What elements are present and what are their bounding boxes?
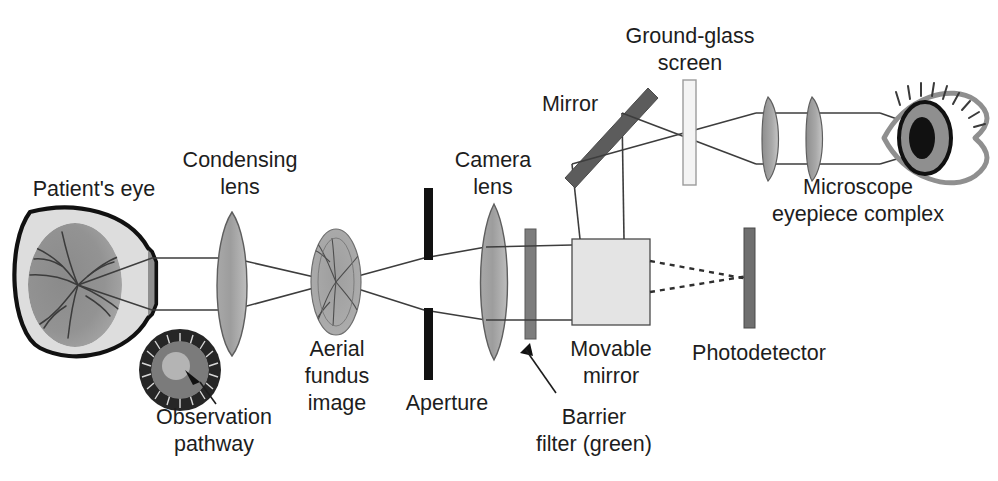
ground-glass-screen [683, 80, 696, 185]
label-photodetector: Photodetector [692, 341, 826, 365]
aperture-lower-blade [424, 308, 433, 380]
ground-glass-screen-bar [683, 80, 696, 185]
label-barrier-filter-line2: filter (green) [536, 432, 652, 456]
camera-lens [481, 204, 508, 360]
label-ground-glass-line1: Ground-glass [625, 24, 754, 48]
label-barrier-filter-line1: Barrier [562, 405, 627, 429]
barrier-filter [520, 229, 556, 393]
label-observation-pathway-line2: pathway [174, 432, 254, 456]
label-camera-lens-line2: lens [473, 175, 512, 199]
microscope-eyepiece-complex [762, 97, 823, 181]
label-aperture: Aperture [406, 391, 488, 415]
aerial-fundus-image [311, 229, 361, 335]
observation-pathway-inset [139, 329, 221, 411]
label-observation-pathway-line1: Observation [156, 405, 272, 429]
eyepiece-lens-first [762, 97, 779, 181]
label-ground-glass-line2: screen [658, 51, 723, 75]
photodetector-bar [744, 228, 755, 328]
label-condensing-lens-line1: Condensing [183, 148, 298, 172]
label-microscope-line1: Microscope [803, 175, 913, 199]
label-microscope-line2: eyepiece complex [772, 202, 944, 226]
retina-region [28, 223, 122, 347]
observer-pupil [909, 117, 935, 159]
movable-mirror-body [572, 239, 650, 325]
optical-diagram: Patient's eye Condensing lens Observatio… [0, 0, 998, 481]
label-patients-eye: Patient's eye [33, 177, 155, 201]
diagram-canvas: Patient's eye Condensing lens Observatio… [0, 0, 998, 481]
inset-core [151, 341, 209, 399]
label-movable-mirror-line1: Movable [570, 337, 651, 361]
label-aerial-fundus-line1: Aerial [310, 337, 365, 361]
barrier-filter-leader [526, 350, 556, 393]
observer-eye [884, 83, 987, 183]
aperture-upper-blade [424, 188, 433, 260]
eyepiece-lens-second [806, 97, 823, 181]
aperture [424, 188, 433, 380]
camera-lens-glass [481, 204, 508, 360]
retina-fill [28, 223, 122, 347]
label-movable-mirror-line2: mirror [583, 364, 639, 388]
inset-pupil [162, 352, 190, 380]
label-condensing-lens-line2: lens [220, 175, 259, 199]
photodetector [744, 228, 755, 328]
movable-mirror [572, 239, 650, 325]
label-mirror: Mirror [542, 92, 598, 116]
photodetector-ray-bundle [650, 261, 748, 292]
barrier-filter-arrowhead [520, 343, 533, 356]
label-aerial-fundus-line2: fundus [305, 364, 370, 388]
label-camera-lens-line1: Camera [455, 148, 532, 172]
condensing-lens [217, 212, 247, 356]
label-aerial-fundus-line3: image [308, 391, 367, 415]
condensing-lens-glass [217, 212, 247, 356]
